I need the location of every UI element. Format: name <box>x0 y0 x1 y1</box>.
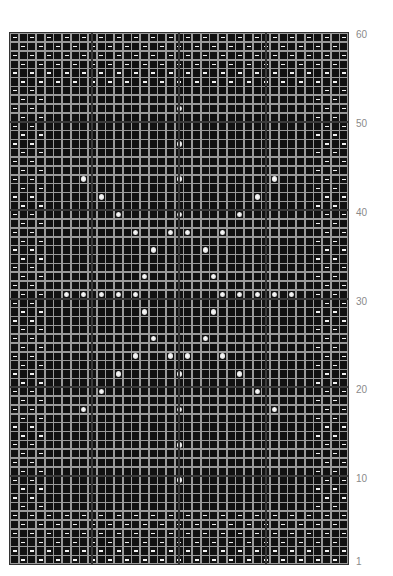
purl-icon <box>151 550 155 551</box>
bobble-icon <box>116 371 121 377</box>
purl-icon <box>117 533 121 534</box>
purl-icon <box>273 533 277 534</box>
bobble-icon <box>116 292 121 298</box>
purl-icon <box>316 223 320 224</box>
purl-icon <box>39 329 43 330</box>
purl-icon <box>82 515 86 516</box>
purl-icon <box>30 196 34 197</box>
purl-icon <box>30 126 34 127</box>
purl-icon <box>39 488 43 489</box>
purl-icon <box>229 524 233 525</box>
purl-icon <box>307 550 311 551</box>
purl-icon <box>221 533 225 534</box>
purl-icon <box>151 515 155 516</box>
purl-icon <box>333 347 337 348</box>
purl-icon <box>160 524 164 525</box>
purl-icon <box>203 72 207 73</box>
purl-icon <box>73 524 77 525</box>
purl-icon <box>21 81 25 82</box>
purl-icon <box>212 81 216 82</box>
purl-icon <box>325 426 329 427</box>
purl-icon <box>203 55 207 56</box>
purl-icon <box>82 533 86 534</box>
purl-icon <box>21 365 25 366</box>
purl-icon <box>316 524 320 525</box>
purl-icon <box>273 37 277 38</box>
purl-icon <box>325 409 329 410</box>
purl-icon <box>151 55 155 56</box>
purl-icon <box>39 311 43 312</box>
purl-icon <box>169 37 173 38</box>
purl-icon <box>30 426 34 427</box>
bobble-icon <box>81 292 86 298</box>
purl-icon <box>281 559 285 560</box>
purl-icon <box>342 285 346 286</box>
purl-icon <box>342 391 346 392</box>
purl-icon <box>342 515 346 516</box>
purl-icon <box>108 542 112 543</box>
purl-icon <box>238 72 242 73</box>
purl-icon <box>333 64 337 65</box>
purl-icon <box>39 241 43 242</box>
purl-icon <box>316 152 320 153</box>
bobble-icon <box>168 353 173 359</box>
purl-icon <box>39 506 43 507</box>
row-label: 10 <box>356 473 367 484</box>
purl-icon <box>255 515 259 516</box>
bobble-icon <box>133 230 138 236</box>
purl-icon <box>221 55 225 56</box>
purl-icon <box>342 550 346 551</box>
row-label: 20 <box>356 384 367 395</box>
purl-icon <box>333 471 337 472</box>
purl-icon <box>299 559 303 560</box>
purl-icon <box>281 64 285 65</box>
purl-icon <box>316 347 320 348</box>
purl-icon <box>316 542 320 543</box>
purl-icon <box>342 462 346 463</box>
bobble-icon <box>255 292 260 298</box>
purl-icon <box>342 232 346 233</box>
purl-icon <box>325 444 329 445</box>
purl-icon <box>333 188 337 189</box>
purl-icon <box>108 524 112 525</box>
purl-icon <box>143 542 147 543</box>
bobble-icon <box>99 389 104 395</box>
purl-icon <box>316 471 320 472</box>
purl-icon <box>108 559 112 560</box>
purl-icon <box>342 55 346 56</box>
purl-icon <box>325 462 329 463</box>
purl-icon <box>333 311 337 312</box>
purl-icon <box>342 37 346 38</box>
purl-icon <box>307 515 311 516</box>
purl-icon <box>13 391 17 392</box>
purl-icon <box>151 37 155 38</box>
purl-icon <box>39 99 43 100</box>
purl-icon <box>307 72 311 73</box>
purl-icon <box>134 533 138 534</box>
purl-icon <box>39 46 43 47</box>
purl-icon <box>342 179 346 180</box>
purl-icon <box>273 515 277 516</box>
bobble-icon <box>220 292 225 298</box>
purl-icon <box>143 46 147 47</box>
purl-icon <box>125 542 129 543</box>
purl-icon <box>65 550 69 551</box>
purl-icon <box>30 409 34 410</box>
purl-icon <box>21 382 25 383</box>
purl-icon <box>342 356 346 357</box>
purl-icon <box>21 223 25 224</box>
row-label: 30 <box>356 296 367 307</box>
bobble-icon <box>255 194 260 200</box>
purl-icon <box>99 550 103 551</box>
purl-icon <box>307 37 311 38</box>
purl-icon <box>342 444 346 445</box>
purl-icon <box>238 37 242 38</box>
purl-icon <box>13 497 17 498</box>
purl-icon <box>30 214 34 215</box>
purl-icon <box>108 81 112 82</box>
purl-icon <box>30 373 34 374</box>
purl-icon <box>238 550 242 551</box>
purl-icon <box>186 515 190 516</box>
purl-icon <box>125 64 129 65</box>
purl-icon <box>13 480 17 481</box>
